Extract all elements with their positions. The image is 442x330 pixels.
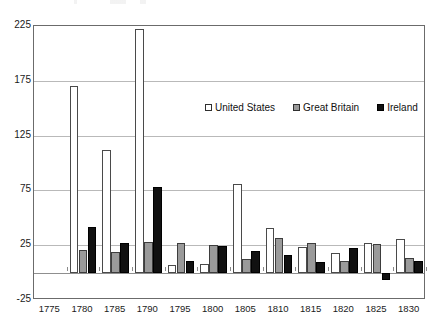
scan-artifact (70, 0, 190, 4)
x-tick-mark (361, 267, 362, 271)
x-tick-mark (197, 267, 198, 271)
y-tick-label: -25 (3, 294, 31, 304)
bar-great-britain (340, 261, 349, 273)
bar-ireland (316, 262, 325, 273)
legend-item-ireland: Ireland (377, 102, 418, 113)
x-axis-labels: 1775178017851790179518001805181018151820… (33, 303, 425, 319)
swatch-open-square-icon (205, 104, 212, 111)
bar-united-states (364, 243, 373, 273)
bar-united-states (396, 239, 405, 273)
y-axis-labels: 2251751257525-25 (0, 25, 31, 299)
bar-ireland (153, 187, 162, 272)
bar-great-britain (177, 243, 186, 273)
bar-united-states (331, 253, 340, 273)
zero-line (34, 273, 424, 274)
bar-united-states (102, 150, 111, 273)
x-tick-mark (328, 267, 329, 271)
bar-united-states (168, 265, 177, 273)
y-tick-label: 75 (3, 184, 31, 194)
y-tick-label: 25 (3, 239, 31, 249)
bar-united-states (233, 184, 242, 273)
bar-great-britain (405, 258, 414, 272)
x-tick-mark (67, 267, 68, 271)
bar-great-britain (307, 243, 316, 273)
x-tick-label: 1830 (389, 303, 429, 315)
gridline (34, 190, 424, 191)
bar-ireland (88, 227, 97, 273)
x-tick-mark (393, 267, 394, 271)
x-tick-mark (230, 267, 231, 271)
legend-item-great-britain: Great Britain (293, 102, 359, 113)
gridline (34, 81, 424, 82)
bar-ireland (218, 246, 227, 272)
bar-ireland (414, 261, 423, 273)
bar-united-states (298, 247, 307, 272)
bar-united-states (266, 228, 275, 273)
bar-great-britain (373, 244, 382, 272)
x-tick-mark (263, 267, 264, 271)
bar-great-britain (242, 259, 251, 272)
bar-united-states (200, 264, 209, 273)
swatch-gray-square-icon (293, 104, 300, 111)
bar-ireland (186, 261, 195, 273)
x-tick-mark (99, 267, 100, 271)
chart-legend: United States Great Britain Ireland (205, 100, 418, 114)
x-tick-mark (132, 267, 133, 271)
plot-area (33, 25, 425, 299)
bar-great-britain (79, 250, 88, 273)
bar-ireland (251, 251, 260, 273)
x-tick-mark (426, 267, 427, 271)
legend-label-ireland: Ireland (387, 102, 418, 113)
bar-great-britain (209, 245, 218, 272)
x-tick-mark (165, 267, 166, 271)
gridline (34, 136, 424, 137)
bar-chart: 2251751257525-25 17751780178517901795180… (0, 0, 442, 330)
y-tick-label: 175 (3, 75, 31, 85)
bar-ireland (284, 255, 293, 273)
bar-great-britain (111, 252, 120, 273)
legend-item-united-states: United States (205, 102, 275, 113)
swatch-black-square-icon (377, 104, 384, 111)
x-tick-mark (295, 267, 296, 271)
y-tick-label: 125 (3, 130, 31, 140)
y-tick-label: 225 (3, 20, 31, 30)
bar-ireland (349, 248, 358, 272)
bar-united-states (135, 29, 144, 272)
legend-label-great-britain: Great Britain (303, 102, 359, 113)
bar-ireland (120, 243, 129, 273)
bar-united-states (70, 86, 79, 272)
bar-ireland (382, 273, 391, 281)
bar-great-britain (144, 242, 153, 273)
bar-great-britain (275, 238, 284, 273)
legend-label-united-states: United States (215, 102, 275, 113)
